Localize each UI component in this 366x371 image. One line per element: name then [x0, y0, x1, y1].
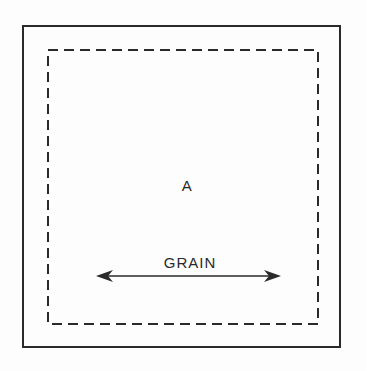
grain-label: GRAIN: [140, 254, 240, 271]
panel-label: A: [175, 177, 199, 194]
grain-arrow-icon: [96, 270, 281, 282]
